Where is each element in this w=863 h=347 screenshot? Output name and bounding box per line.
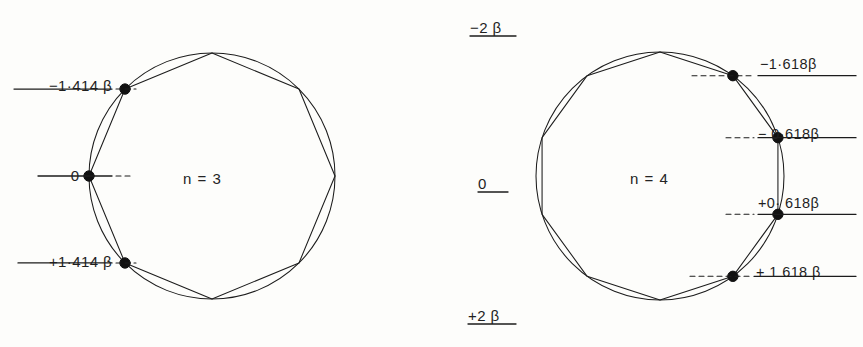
left-level-text-2: +1·414 β: [49, 253, 112, 270]
center-tick-label-2: +2 β: [468, 308, 500, 323]
figure-canvas: [0, 0, 863, 347]
right-level-text-2: +0· 618β: [758, 195, 819, 211]
right-level-text-1: − 0·618β: [758, 126, 819, 142]
right-level-label-0: −1·618β: [760, 57, 817, 72]
left-n-label: n = 3: [183, 170, 222, 187]
center-tick-label-0: −2 β: [470, 20, 502, 35]
left-level-text-1: 0: [71, 167, 80, 184]
right-level-text-0: −1·618β: [760, 56, 817, 72]
left-level-label-0: −1·414 β: [14, 78, 112, 93]
right-n-label: n = 4: [630, 170, 669, 187]
left-level-label-1: 0: [38, 168, 112, 183]
right-level-label-2: +0· 618β: [758, 196, 819, 211]
center-tick-text-0: −2 β: [470, 19, 502, 36]
right-level-label-1: − 0·618β: [758, 127, 819, 142]
right-level-label-3: + 1 618 β: [756, 265, 821, 280]
frost-circle-figure: n = 3 −1·414 β 0 +1·414 β −2 β 0 +2 β n …: [0, 0, 863, 347]
right-level-text-3: + 1 618 β: [756, 264, 821, 280]
center-tick-text-1: 0: [478, 175, 487, 192]
center-tick-label-1: 0: [478, 176, 487, 191]
left-level-text-0: −1·414 β: [49, 77, 112, 94]
center-tick-text-2: +2 β: [468, 307, 500, 324]
left-level-label-2: +1·414 β: [18, 254, 112, 269]
